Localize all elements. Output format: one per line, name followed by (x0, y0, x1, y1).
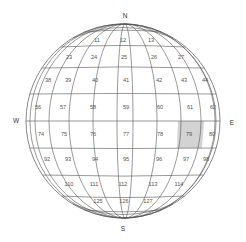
cell-label-59: 59 (123, 104, 129, 110)
globe-grid-diagram: 1112132324252627383940414243445657585960… (0, 0, 246, 242)
cell-label-97: 97 (183, 156, 189, 162)
cell-label-42: 42 (156, 77, 162, 83)
latitude-line-7 (61, 196, 184, 198)
grid-lines (26, 24, 220, 218)
cell-label-75: 75 (61, 131, 67, 137)
cell-label-25: 25 (121, 54, 127, 60)
latitude-line-3 (30, 93, 216, 94)
cell-label-57: 57 (60, 104, 66, 110)
cell-label-41: 41 (123, 77, 129, 83)
cell-label-11: 11 (94, 37, 100, 43)
cell-label-61: 61 (187, 104, 193, 110)
cell-label-125: 125 (93, 198, 102, 204)
cell-label-39: 39 (65, 77, 71, 83)
cell-label-40: 40 (92, 77, 98, 83)
latitude-line-6 (42, 175, 203, 176)
cell-label-58: 58 (90, 104, 96, 110)
cell-label-27: 27 (178, 54, 184, 60)
cell-label-24: 24 (91, 54, 97, 60)
cell-label-112: 112 (119, 181, 128, 187)
compass-north: N (123, 12, 128, 19)
latitude-line-2 (42, 67, 204, 68)
cell-label-43: 43 (181, 77, 187, 83)
cell-label-62: 62 (210, 104, 216, 110)
cell-label-56: 56 (35, 104, 41, 110)
cell-label-13: 13 (148, 37, 154, 43)
cell-label-96: 96 (156, 156, 162, 162)
latitude-line-5 (30, 148, 216, 149)
cell-label-38: 38 (45, 77, 51, 83)
cell-label-77: 77 (123, 131, 129, 137)
cell-label-93: 93 (65, 156, 71, 162)
globe-svg: 1112132324252627383940414243445657585960… (0, 0, 246, 242)
cell-label-94: 94 (92, 156, 98, 162)
cell-label-76: 76 (90, 131, 96, 137)
cell-label-79: 79 (186, 131, 192, 137)
cell-label-111: 111 (90, 181, 99, 187)
cell-label-98: 98 (203, 156, 209, 162)
cell-label-127: 127 (143, 198, 152, 204)
cell-label-95: 95 (123, 156, 129, 162)
compass-south: S (121, 225, 126, 232)
cell-label-114: 114 (175, 181, 184, 187)
cell-label-74: 74 (38, 131, 44, 137)
compass-west: W (13, 117, 20, 124)
compass-east: E (230, 119, 235, 126)
cell-label-23: 23 (66, 54, 72, 60)
cell-label-113: 113 (149, 181, 158, 187)
cell-label-44: 44 (202, 77, 208, 83)
cell-label-26: 26 (151, 54, 157, 60)
cell-label-92: 92 (44, 156, 50, 162)
latitude-line-1 (60, 45, 185, 47)
cell-label-126: 126 (119, 198, 128, 204)
cell-label-12: 12 (120, 37, 126, 43)
cell-label-60: 60 (157, 104, 163, 110)
cell-label-110: 110 (65, 181, 74, 187)
cell-label-80: 80 (209, 131, 215, 137)
cell-label-78: 78 (157, 131, 163, 137)
